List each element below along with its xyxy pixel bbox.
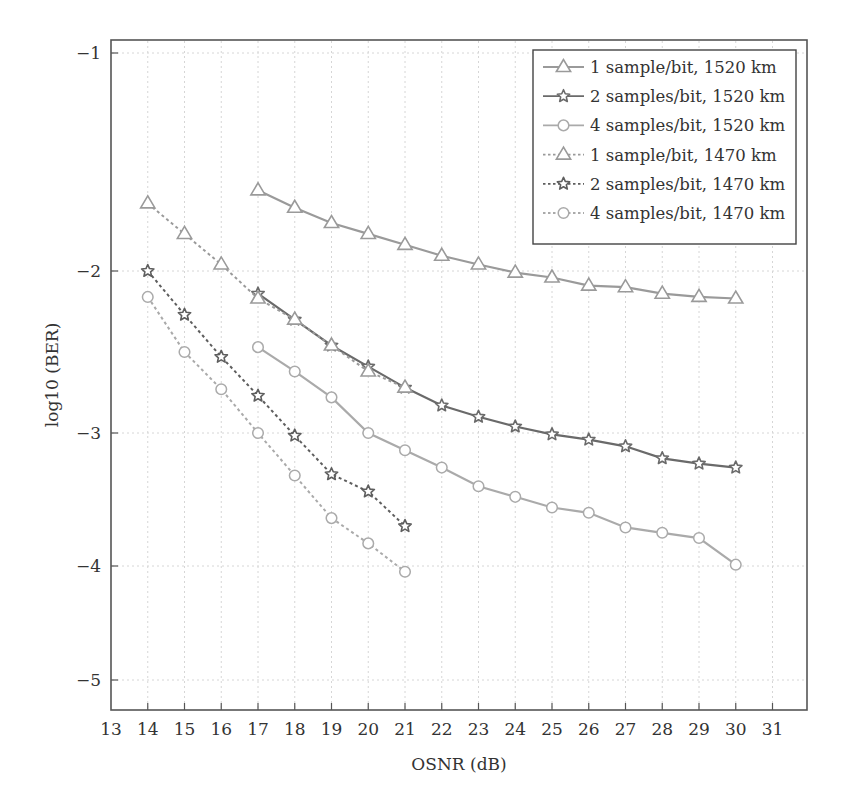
star-marker: [472, 410, 484, 422]
circle-marker: [253, 428, 264, 439]
circle-marker: [620, 522, 631, 533]
circle-marker: [694, 533, 705, 544]
x-tick-label: 25: [541, 719, 563, 739]
star-marker: [619, 440, 631, 452]
x-axis: 13141516171819202122232425262728293031: [100, 703, 783, 739]
triangle-marker: [251, 183, 265, 195]
legend-label: 2 samples/bit, 1520 km: [590, 87, 786, 106]
circle-marker: [179, 347, 190, 358]
series-5: [142, 265, 412, 532]
circle-marker: [216, 384, 227, 395]
circle-marker: [510, 492, 521, 503]
triangle-marker: [618, 280, 632, 292]
star-marker: [693, 457, 705, 469]
legend-label: 4 samples/bit, 1520 km: [590, 116, 786, 135]
y-tick-label: −4: [76, 556, 101, 576]
y-tick-label: −1: [76, 43, 101, 63]
legend-label: 1 sample/bit, 1520 km: [590, 58, 777, 77]
star-marker: [399, 520, 411, 532]
circle-marker: [547, 502, 558, 513]
legend-label: 2 samples/bit, 1470 km: [590, 175, 786, 194]
star-marker: [546, 428, 558, 440]
x-tick-label: 21: [394, 719, 416, 739]
circle-marker: [400, 566, 411, 577]
triangle-marker: [141, 196, 155, 208]
x-tick-label: 15: [174, 719, 196, 739]
star-marker: [583, 433, 595, 445]
circle-marker: [657, 527, 668, 538]
circle-marker: [583, 508, 594, 519]
circle-marker: [436, 462, 447, 473]
circle-marker: [558, 120, 569, 131]
x-tick-label: 20: [357, 719, 379, 739]
triangle-marker: [729, 291, 743, 303]
star-marker: [436, 399, 448, 411]
circle-marker: [558, 208, 569, 219]
x-tick-label: 14: [137, 719, 159, 739]
x-tick-label: 23: [468, 719, 490, 739]
y-tick-label: −2: [76, 261, 101, 281]
star-marker: [325, 468, 337, 480]
y-axis-title: log10 (BER): [42, 323, 62, 428]
x-tick-label: 19: [321, 719, 343, 739]
x-tick-label: 24: [504, 719, 526, 739]
x-tick-label: 30: [725, 719, 747, 739]
series-line: [258, 294, 736, 468]
triangle-marker: [177, 226, 191, 238]
ber-vs-osnr-chart: 13141516171819202122232425262728293031 −…: [0, 0, 851, 805]
legend: 1 sample/bit, 1520 km2 samples/bit, 1520…: [533, 50, 796, 244]
series-2: [252, 287, 742, 473]
legend-label: 4 samples/bit, 1470 km: [590, 204, 786, 223]
circle-marker: [289, 366, 300, 377]
x-tick-label: 22: [431, 719, 453, 739]
circle-marker: [142, 292, 153, 303]
series-4: [141, 196, 413, 392]
star-marker: [509, 420, 521, 432]
x-axis-title: OSNR (dB): [411, 754, 506, 774]
x-tick-label: 16: [210, 719, 232, 739]
star-marker: [142, 265, 154, 277]
x-tick-label: 18: [284, 719, 306, 739]
x-tick-label: 27: [615, 719, 637, 739]
y-tick-label: −5: [76, 670, 101, 690]
star-marker: [252, 389, 264, 401]
circle-marker: [400, 445, 411, 456]
triangle-marker: [214, 257, 228, 269]
star-marker: [730, 461, 742, 473]
x-tick-label: 17: [247, 719, 269, 739]
circle-marker: [473, 481, 484, 492]
circle-marker: [253, 342, 264, 353]
circle-marker: [289, 470, 300, 481]
star-marker: [289, 429, 301, 441]
legend-label: 1 sample/bit, 1470 km: [590, 146, 777, 165]
x-tick-label: 13: [100, 719, 122, 739]
star-marker: [215, 350, 227, 362]
x-tick-label: 28: [651, 719, 673, 739]
x-tick-label: 31: [762, 719, 784, 739]
y-tick-label: −3: [76, 423, 101, 443]
circle-marker: [730, 559, 741, 570]
circle-marker: [363, 538, 374, 549]
x-tick-label: 29: [688, 719, 710, 739]
circle-marker: [326, 513, 337, 524]
x-tick-label: 26: [578, 719, 600, 739]
circle-marker: [326, 392, 337, 403]
circle-marker: [363, 428, 374, 439]
star-marker: [656, 452, 668, 464]
